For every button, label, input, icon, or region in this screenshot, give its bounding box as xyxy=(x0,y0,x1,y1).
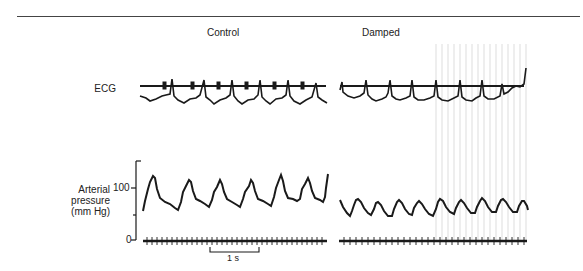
ecg-trace-damped xyxy=(340,68,526,101)
time-marker-control xyxy=(143,237,327,245)
time-marker-damped xyxy=(339,237,527,245)
ecg-trace-control xyxy=(140,79,327,104)
pressure-trace-damped xyxy=(340,198,528,216)
time-scale-bracket xyxy=(210,247,259,252)
pressure-trace-control xyxy=(143,174,328,211)
traces-canvas xyxy=(0,0,583,271)
y-axis xyxy=(131,161,141,240)
